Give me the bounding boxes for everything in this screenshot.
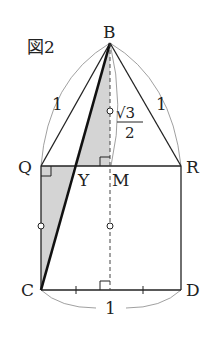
label-D: D <box>186 280 200 300</box>
length-BR: 1 <box>156 94 167 114</box>
figure-title: 図2 <box>27 37 55 57</box>
right-angle-base <box>100 281 110 290</box>
equal-mark-circle <box>107 108 113 114</box>
label-B: B <box>103 22 116 42</box>
label-Y: Y <box>77 170 90 190</box>
equal-mark-circle <box>107 223 113 229</box>
length-BM-denominator: 2 <box>125 124 135 142</box>
label-C: C <box>21 280 34 300</box>
equal-mark-circle <box>38 223 44 229</box>
label-R: R <box>186 157 200 177</box>
label-M: M <box>112 170 129 190</box>
length-BQ: 1 <box>52 94 63 114</box>
geometry-figure: 図2 B Q R Y M C D 1 1 1 √3 2 <box>0 0 220 341</box>
label-Q: Q <box>18 157 32 177</box>
length-BM-numerator: √3 <box>116 104 135 122</box>
length-CD: 1 <box>105 298 116 318</box>
